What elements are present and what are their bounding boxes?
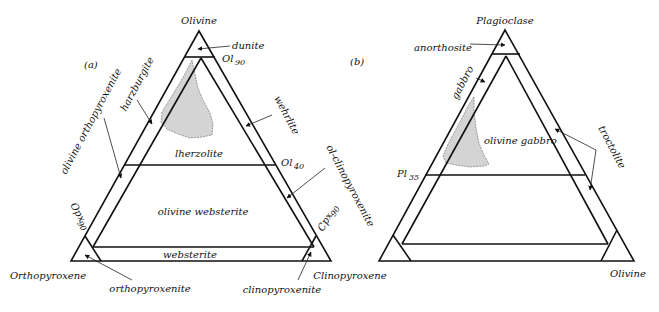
opx90-line [85, 236, 101, 261]
svg-text:90: 90 [75, 219, 88, 232]
diagram-a-ultramafic: Olivine Orthopyroxene Clinopyroxene (a) … [10, 15, 387, 295]
field-label-olivine-gabbro: olivine gabbro [484, 135, 557, 146]
vertex-label-olivine: Olivine [181, 15, 217, 26]
field-label-orthopyroxenite: orthopyroxenite [109, 283, 190, 294]
ternary-diagrams: Olivine Orthopyroxene Clinopyroxene (a) … [0, 0, 659, 312]
svg-text:Opx: Opx [68, 201, 88, 224]
harzburgite-arrow [137, 100, 152, 124]
panel-label-b: (b) [350, 56, 364, 67]
svg-text:Pl: Pl [396, 168, 407, 179]
svg-text:Ol: Ol [281, 157, 292, 168]
ol90-label: Ol 90 [222, 53, 245, 67]
field-label-harzburgite: harzburgite [118, 55, 156, 113]
vertex-label-orthopyroxene: Orthopyroxene [10, 270, 86, 281]
field-label-gabbro: gabbro [449, 64, 476, 101]
field-label-anorthosite: anorthosite [414, 42, 472, 53]
troctolite-arrow-upper [555, 129, 596, 150]
field-label-dunite: dunite [232, 40, 264, 51]
field-label-wehrlite: wehrlite [272, 94, 301, 136]
pl35-label: Pl 35 [396, 168, 419, 182]
panel-label-a: (a) [84, 59, 98, 70]
field-label-websterite: websterite [163, 249, 217, 260]
field-label-lherzolite: lherzolite [175, 148, 223, 159]
ol-clinopyroxenite-arrow [287, 168, 325, 198]
opx90-label: Opx 90 [66, 201, 93, 233]
dunite-arrow [198, 46, 230, 49]
cpx-corner-line-b [393, 235, 411, 261]
field-label-olivine-websterite: olivine websterite [158, 206, 249, 217]
diagram-b-gabbroic: Plagioclase Olivine (b) Pl 35 anorthosit… [350, 15, 646, 279]
olivine-orthopyroxenite-arrow [104, 118, 121, 178]
vertex-label-olivine-b: Olivine [610, 268, 646, 279]
vertex-label-plagioclase: Plagioclase [475, 15, 533, 26]
inner-right-edge-b [506, 56, 608, 244]
svg-text:40: 40 [293, 162, 304, 171]
orthopyroxenite-arrow [85, 255, 132, 280]
anorthosite-arrow [470, 44, 505, 45]
ol40-label: Ol 40 [281, 157, 304, 171]
outer-triangle-a [71, 31, 331, 261]
svg-text:90: 90 [235, 58, 245, 67]
svg-text:Ol: Ol [222, 53, 233, 64]
shaded-region-a [161, 60, 213, 138]
inner-left-edge-b [402, 56, 506, 244]
cpx90-label: Cpx 90 [315, 202, 342, 234]
vertex-label-clinopyroxene: Clinopyroxene [313, 270, 386, 281]
field-label-clinopyroxenite: clinopyroxenite [243, 284, 322, 295]
field-label-olivine-orthopyroxenite: olivine orthopyroxenite [58, 66, 123, 175]
svg-text:35: 35 [409, 173, 419, 182]
troctolite-arrow-lower [590, 150, 596, 190]
field-label-troctolite: troctolite [596, 124, 628, 171]
